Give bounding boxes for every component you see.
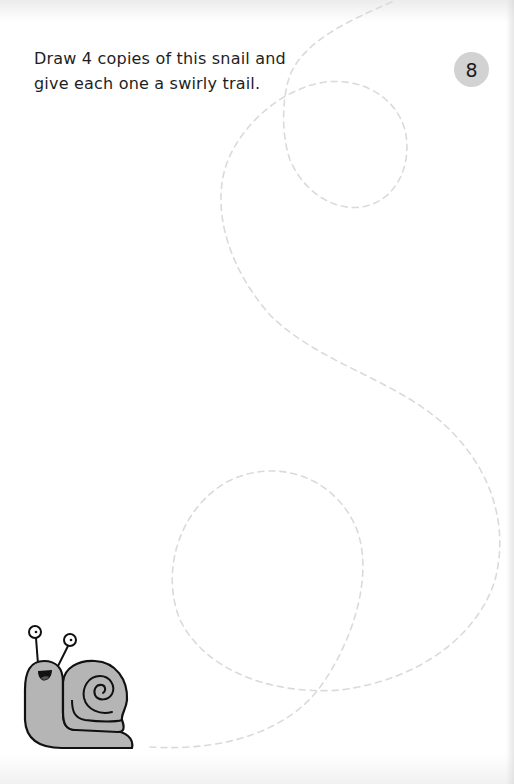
snail-illustration — [0, 0, 514, 784]
activity-page: Draw 4 copies of this snail and give eac… — [0, 0, 514, 784]
right-eye-stalk — [57, 646, 68, 668]
page-edge-shadow — [506, 0, 514, 784]
right-pupil — [70, 639, 73, 642]
bottom-shadow — [0, 754, 514, 784]
left-pupil — [35, 631, 38, 634]
left-eye-stalk — [36, 638, 38, 664]
